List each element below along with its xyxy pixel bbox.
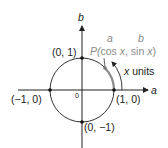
p-leader-line (104, 58, 105, 67)
b-axis-label: b (78, 11, 84, 23)
a-axis-label: a (151, 84, 157, 96)
point-1-0 (112, 88, 116, 92)
label-neg1-0: (−1, 0) (11, 93, 42, 105)
origin-label: 0 (75, 92, 79, 99)
point-0-1 (80, 56, 84, 60)
label-0-1: (0, 1) (52, 46, 77, 58)
p-label: P(cos x, sin x) (90, 45, 156, 57)
arc-length-label: x units (123, 65, 154, 77)
p-cos: cos (101, 45, 120, 57)
label-1-0: (1, 0) (116, 93, 141, 105)
arc-units: units (129, 65, 154, 77)
arc-x-segment (105, 68, 114, 90)
unit-circle-diagram: b a 0 (0, 1) (1, 0) (−1, 0) (0, −1) a b … (0, 0, 168, 148)
p-suffix: ) (152, 45, 156, 57)
p-annot-a: a (107, 32, 113, 44)
label-0-neg1: (0, −1) (84, 121, 115, 133)
point-neg1-0 (48, 88, 52, 92)
p-sep: , sin (125, 45, 147, 57)
p-annot-b: b (138, 32, 144, 44)
point-p (103, 66, 107, 70)
